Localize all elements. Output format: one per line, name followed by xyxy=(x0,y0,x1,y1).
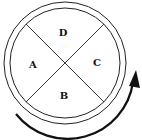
quadrant-label-right: C xyxy=(93,57,101,68)
rotation-arrow-arc xyxy=(16,82,133,139)
rotation-arrow-head-icon xyxy=(129,70,140,88)
quadrant-label-left: A xyxy=(28,59,37,70)
diagram-canvas: D A C B xyxy=(0,0,142,140)
quadrant-label-top: D xyxy=(59,27,68,38)
quadrant-label-bottom: B xyxy=(60,90,68,101)
quadrant-diagram: D A C B xyxy=(0,0,142,140)
